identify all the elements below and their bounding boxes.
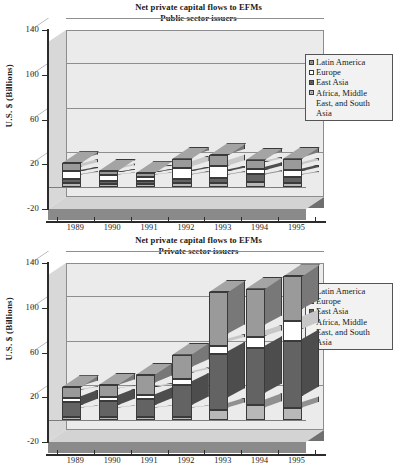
bar-segment-1992-2 [172, 379, 191, 385]
y-tick-label: 140 [8, 257, 39, 267]
bar-segment-1990-0 [99, 417, 118, 419]
bar-segment-1995-0 [283, 183, 302, 186]
bar-segment-1993-3 [209, 292, 228, 346]
legend-item: Africa, Middle East, and South Asia [309, 317, 389, 348]
x-tick [131, 217, 132, 221]
y-axis-title: U.S. $ (Billions) [4, 297, 14, 360]
x-tick [204, 450, 205, 454]
x-tick [278, 217, 279, 221]
y-tick-label: -20 [8, 436, 39, 446]
x-tick [278, 450, 279, 454]
bar-segment-1991-2 [136, 395, 155, 399]
chart-public-sector: Net private capital flows to EFMsPublic … [0, 0, 397, 233]
legend-label: Europe [316, 67, 341, 77]
bar-segment-1991-1 [136, 181, 155, 184]
bar-segment-1993-0 [209, 183, 228, 186]
bar-segment-side [264, 336, 282, 393]
bar-segment-1994-3 [246, 160, 265, 169]
bar-segment-1991-1 [136, 399, 155, 417]
plot-floor [48, 197, 324, 209]
x-tick-label: 1994 [241, 456, 278, 465]
x-tick-label: 1990 [94, 456, 131, 465]
bar-segment-1993-0 [209, 410, 228, 420]
y-tick-label: 140 [8, 24, 39, 34]
legend-label: Africa, Middle East, and South Asia [316, 317, 370, 348]
bar-segment-1993-3 [209, 155, 228, 166]
x-tick-label: 1991 [131, 456, 168, 465]
bar-segment-1989-2 [62, 398, 81, 401]
chart-title-line1: Net private capital flows to EFMs [0, 2, 397, 13]
bar-segment-1989-3 [62, 387, 81, 398]
y-axis [47, 262, 49, 443]
legend-item: Latin America [309, 286, 389, 296]
bar-segment-1992-3 [172, 355, 191, 380]
gridline [66, 18, 324, 19]
bar-segment-side [301, 329, 319, 396]
legend-label: East Asia [316, 77, 348, 87]
plot-floor [48, 430, 324, 442]
x-tick [168, 217, 169, 221]
x-tick [168, 450, 169, 454]
x-tick-label: 1991 [131, 223, 168, 232]
bar-segment-1995-1 [283, 177, 302, 184]
bar-segment-1995-3 [283, 159, 302, 170]
bar-segment-1994-2 [246, 337, 265, 348]
x-tick [94, 450, 95, 454]
bar-segment-1994-2 [246, 169, 265, 175]
bar-segment-1992-0 [172, 417, 191, 419]
chart-title: Net private capital flows to EFMsPublic … [0, 2, 397, 23]
plot-front-skirt [48, 209, 306, 220]
plot-front-skirt [48, 442, 306, 453]
bar-segment-1995-2 [283, 170, 302, 177]
bar-segment-1989-0 [62, 417, 81, 419]
bar-segment-1989-1 [62, 402, 81, 418]
x-tick [241, 217, 242, 221]
x-tick-label: 1989 [57, 223, 94, 232]
x-tick-label: 1989 [57, 456, 94, 465]
legend-item: Europe [309, 296, 389, 306]
bar-segment-1992-0 [172, 183, 191, 186]
x-tick-label: 1992 [168, 456, 205, 465]
legend-swatch [309, 60, 314, 65]
chart-title: Net private capital flows to EFMsPrivate… [0, 235, 397, 256]
bar-segment-1992-1 [172, 385, 191, 417]
bar-segment-1989-0 [62, 183, 81, 186]
gridline [66, 251, 324, 252]
bar-segment-1990-3 [99, 171, 118, 175]
bar-segment-1994-3 [246, 289, 265, 337]
bar-segment-1991-2 [136, 177, 155, 181]
bar-segment-1993-2 [209, 166, 228, 177]
bar-segment-1993-1 [209, 178, 228, 184]
x-tick [241, 450, 242, 454]
x-tick-label: 1995 [278, 223, 315, 232]
bar-segment-1992-2 [172, 168, 191, 179]
bar-segment-1989-2 [62, 171, 81, 179]
y-tick-label: 20 [8, 158, 39, 168]
bar-segment-1995-3 [283, 276, 302, 321]
bar-segment-1993-2 [209, 346, 228, 354]
bar-segment-1991-0 [136, 417, 155, 419]
bar-segment-1990-1 [99, 181, 118, 184]
legend-label: Africa, Middle East, and South Asia [316, 88, 370, 119]
gridline [66, 63, 324, 64]
y-tick-label: 20 [8, 391, 39, 401]
legend-item: East Asia [309, 306, 389, 316]
legend-swatch [309, 90, 314, 95]
x-tick [315, 217, 316, 221]
gridline [66, 108, 324, 109]
y-axis [47, 29, 49, 210]
bar-segment-1991-3 [136, 375, 155, 395]
x-tick [57, 217, 58, 221]
x-tick-label: 1994 [241, 223, 278, 232]
bar-segment-1990-1 [99, 401, 118, 418]
bar-segment-1995-1 [283, 341, 302, 408]
bar-segment-1991-3 [136, 173, 155, 176]
y-axis-title: U.S. $ (Billions) [4, 64, 14, 127]
x-tick-label: 1990 [94, 223, 131, 232]
bar-segment-1994-0 [246, 182, 265, 186]
bar-segment-1990-0 [99, 184, 118, 186]
x-tick [131, 450, 132, 454]
x-tick-label: 1993 [204, 223, 241, 232]
legend-label: Latin America [316, 57, 365, 67]
legend-item: Latin America [309, 57, 389, 67]
